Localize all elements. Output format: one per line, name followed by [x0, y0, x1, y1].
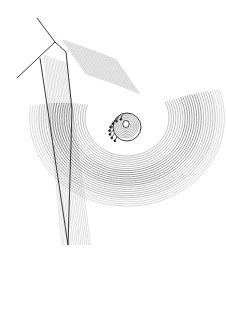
line-engraving: [0, 0, 226, 312]
illustration: [0, 0, 226, 312]
hatching: [30, 40, 225, 245]
areola: [109, 113, 141, 142]
